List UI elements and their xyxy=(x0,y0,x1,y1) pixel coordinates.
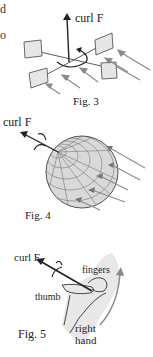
figure-3: curl F Fig. 3 xyxy=(0,0,153,110)
right-label: right xyxy=(75,323,96,334)
caption-fig3: Fig. 3 xyxy=(73,96,99,107)
caption-fig5: Fig. 5 xyxy=(18,328,46,340)
curl-f-label-fig4: curl F xyxy=(3,116,31,128)
curl-f-label-fig5: curl F xyxy=(14,252,40,263)
thumb-label: thumb xyxy=(35,292,61,302)
figure-4: curl F Fig. 4 xyxy=(0,110,153,230)
caption-fig4: Fig. 4 xyxy=(25,210,51,221)
curl-f-label-fig3: curl F xyxy=(75,12,103,24)
hand-label: hand xyxy=(75,335,96,346)
figure-5: curl F fingers thumb right hand Fig. 5 xyxy=(0,225,153,357)
fingers-label: fingers xyxy=(82,265,110,275)
